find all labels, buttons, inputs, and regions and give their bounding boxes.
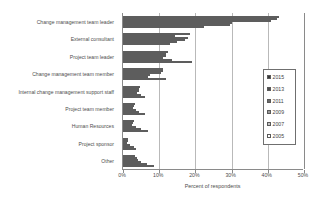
legend-label: 2011 [273,98,284,104]
legend-item[interactable]: 2015 [267,73,284,81]
x-tick-label: 30% [225,172,235,178]
bar [123,148,136,150]
legend-label: 2005 [273,133,285,139]
bar [123,26,204,28]
category-label: External consultant [71,36,114,42]
legend-swatch-icon [267,99,271,103]
gridline [304,13,305,169]
x-axis-title: Percent of respondents [122,183,303,189]
x-tick-label: 10% [153,172,163,178]
category-label: Other [101,158,114,164]
category-label: Project team leader [70,53,114,59]
category-label: Project sponsor [79,141,114,147]
legend-swatch-icon [267,134,271,138]
bar [123,130,148,132]
x-tick-label: 40% [262,172,272,178]
bar-chart: Change management team leaderExternal co… [0,0,318,205]
x-tick-label: 50% [298,172,308,178]
category-label: Project team member [65,106,114,112]
x-tick-label: 20% [189,172,199,178]
category-label: Change management team leader [37,19,114,25]
legend-label: 2009 [273,109,285,115]
legend: 201520132011200920072005 [263,69,296,145]
bar [123,61,192,63]
legend-swatch-icon [267,110,271,114]
legend-swatch-icon [267,75,271,79]
legend-swatch-icon [267,87,271,91]
x-tick-label: 0% [118,172,126,178]
legend-item[interactable]: 2013 [267,85,284,93]
legend-swatch-icon [267,122,271,126]
x-axis-tick-labels: 0%10%20%30%40%50% [122,172,303,181]
bar [123,113,145,115]
legend-label: 2007 [273,121,285,127]
category-axis-labels: Change management team leaderExternal co… [0,13,118,170]
bar [123,43,170,45]
bar [123,165,154,167]
legend-label: 2015 [273,74,285,80]
chart-title [8,0,238,4]
category-label: Change management team member [32,71,114,77]
legend-item[interactable]: 2011 [267,97,284,105]
legend-label: 2013 [273,86,285,92]
bar [123,78,166,80]
legend-item[interactable]: 2009 [267,108,284,116]
legend-item[interactable]: 2007 [267,120,284,128]
legend-item[interactable]: 2005 [267,132,284,140]
category-label: Human Resources [72,123,114,129]
gridline [195,13,196,169]
category-label: Internal change management support staff [18,88,114,94]
bar [123,96,145,98]
gridline [232,13,233,169]
